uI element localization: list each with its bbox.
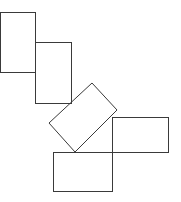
rect-right — [113, 118, 169, 153]
rect-bottom — [54, 153, 113, 192]
rect-upper-middle — [36, 43, 72, 104]
rect-top-left — [1, 13, 36, 73]
diagram-canvas — [0, 0, 181, 202]
